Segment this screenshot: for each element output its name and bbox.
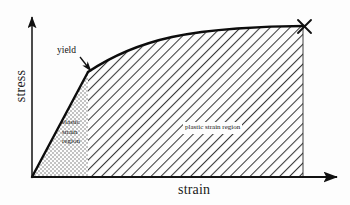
yield-callout-arrow <box>80 57 91 71</box>
plastic-strain-region <box>88 26 303 177</box>
yield-annotation-label: yield <box>57 45 76 55</box>
stress-strain-diagram: stress strain yield elastic strain regio… <box>0 0 350 205</box>
elastic-strain-region-label: elastic strain region <box>62 118 80 147</box>
y-axis-label: stress <box>13 56 29 116</box>
figure-canvas <box>0 0 350 205</box>
elastic-label-line-2: strain <box>62 128 80 138</box>
plastic-strain-region-label: plastic strain region <box>183 122 242 134</box>
elastic-label-line-1: elastic <box>62 118 80 128</box>
elastic-label-line-3: region <box>62 137 80 147</box>
x-axis-label: strain <box>178 182 210 198</box>
